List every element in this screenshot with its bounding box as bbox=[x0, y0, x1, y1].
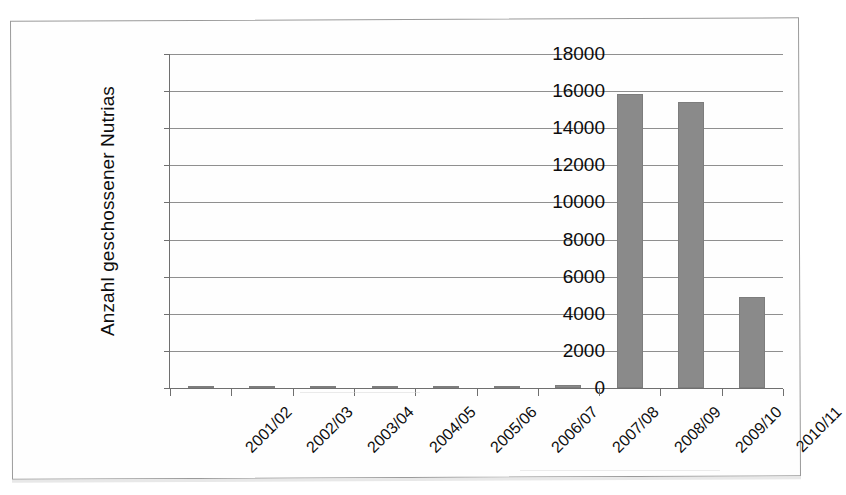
y-tick-mark bbox=[164, 128, 170, 129]
y-tick-label: 8000 bbox=[563, 229, 605, 251]
x-tick-mark bbox=[538, 389, 539, 396]
bar bbox=[249, 386, 275, 388]
y-tick-mark bbox=[164, 314, 170, 315]
gridline bbox=[170, 54, 783, 55]
bar bbox=[739, 297, 765, 388]
y-tick-label: 14000 bbox=[552, 117, 605, 139]
y-tick-mark bbox=[164, 277, 170, 278]
x-tick-label: 2010/11 bbox=[793, 403, 846, 456]
y-tick-mark bbox=[164, 91, 170, 92]
x-tick-mark bbox=[660, 389, 661, 396]
plot-area: 1800016000140001200010000800060004000200… bbox=[170, 54, 783, 388]
y-tick-mark bbox=[164, 240, 170, 241]
x-tick-mark bbox=[293, 389, 294, 396]
y-tick-label: 12000 bbox=[552, 154, 605, 176]
x-tick-label: 2005/06 bbox=[487, 403, 541, 457]
bar bbox=[310, 386, 336, 388]
y-tick-label: 4000 bbox=[563, 303, 605, 325]
x-tick-mark bbox=[722, 389, 723, 396]
gridline bbox=[170, 91, 783, 92]
y-tick-mark bbox=[164, 202, 170, 203]
y-tick-label: 6000 bbox=[563, 266, 605, 288]
bar bbox=[617, 94, 643, 388]
x-tick-label: 2002/03 bbox=[303, 403, 357, 457]
x-tick-label: 2003/04 bbox=[364, 403, 418, 457]
x-tick-label: 2007/08 bbox=[609, 403, 663, 457]
x-tick-label: 2009/10 bbox=[732, 403, 786, 457]
x-tick-mark bbox=[599, 389, 600, 396]
bar bbox=[188, 386, 214, 388]
y-tick-label: 16000 bbox=[552, 80, 605, 102]
y-tick-mark bbox=[164, 165, 170, 166]
x-tick-mark bbox=[783, 389, 784, 396]
x-tick-label: 2001/02 bbox=[242, 403, 296, 457]
y-tick-label: 2000 bbox=[563, 340, 605, 362]
y-tick-label: 18000 bbox=[552, 43, 605, 65]
bar bbox=[494, 386, 520, 388]
x-tick-label: 2004/05 bbox=[425, 403, 479, 457]
y-axis-line bbox=[169, 54, 170, 389]
bar bbox=[678, 102, 704, 388]
x-tick-label: 2006/07 bbox=[548, 403, 602, 457]
y-tick-label: 10000 bbox=[552, 191, 605, 213]
y-tick-mark bbox=[164, 351, 170, 352]
x-tick-mark bbox=[231, 389, 232, 396]
bar bbox=[433, 386, 459, 388]
x-tick-mark bbox=[170, 389, 171, 396]
bar bbox=[372, 386, 398, 388]
y-axis-title: Anzahl geschossener Nutrias bbox=[97, 41, 119, 381]
x-tick-label: 2008/09 bbox=[671, 403, 725, 457]
y-tick-mark bbox=[164, 54, 170, 55]
bar bbox=[555, 385, 581, 388]
x-tick-mark bbox=[477, 389, 478, 396]
